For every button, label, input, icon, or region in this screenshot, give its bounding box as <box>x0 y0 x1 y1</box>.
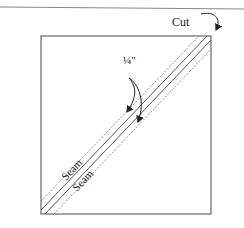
top-rule <box>0 7 244 9</box>
cut-arrow-icon <box>201 13 218 30</box>
cut-label: Cut <box>172 15 190 29</box>
quarter-inch-label: ¼" <box>123 54 136 66</box>
cut-line-lower <box>45 40 211 214</box>
quilt-square-diagram: Cut ¼" Seam Seam <box>0 0 244 228</box>
